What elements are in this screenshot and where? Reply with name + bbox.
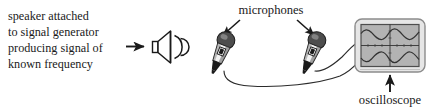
speaker-caption-line-2: to signal generator [8, 25, 99, 39]
microphone-left [204, 29, 237, 77]
microphones-label: microphones [238, 3, 303, 17]
speaker-caption-line-1: speaker attached [8, 9, 89, 23]
apparatus-diagram: speaker attached to signal generator pro… [0, 0, 429, 108]
speaker-caption-line-4: known frequency [8, 57, 94, 71]
cable-left-microphone [224, 58, 362, 87]
oscilloscope-screen [361, 25, 419, 67]
oscilloscope-label: oscilloscope [359, 93, 422, 107]
diagram-canvas: speaker attached to signal generator pro… [0, 0, 429, 108]
speaker-caption-line-3: producing signal of [8, 41, 104, 55]
speaker-icon [153, 31, 190, 63]
oscilloscope [355, 19, 425, 72]
